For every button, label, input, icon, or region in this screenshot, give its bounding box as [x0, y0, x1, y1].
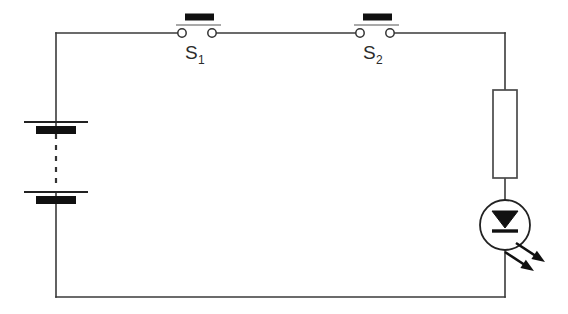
- switch-s2-terminal-left: [356, 29, 364, 37]
- switch-s2-blade[interactable]: [363, 14, 392, 21]
- battery-icon: [24, 122, 88, 204]
- switch-s1-label: S: [185, 42, 198, 63]
- led-icon: [480, 200, 545, 271]
- battery-plate-negative-2: [36, 196, 76, 204]
- switch-s1-terminal-left: [178, 29, 186, 37]
- led-emission-arrow-1-shaft: [516, 243, 537, 257]
- switch-s1-label-subscript: 1: [198, 53, 205, 67]
- led-emission-arrow-1-head: [531, 251, 545, 262]
- wire-group: [56, 33, 505, 297]
- circuit-diagram-canvas: S 1 S 2: [0, 0, 568, 314]
- switch-s2[interactable]: S 2: [354, 14, 399, 68]
- switch-s2-label: S: [363, 42, 376, 63]
- circuit-diagram-svg: S 1 S 2: [0, 0, 568, 314]
- resistor-icon: [493, 90, 517, 178]
- switch-s2-label-subscript: 2: [376, 53, 383, 67]
- switch-s1-terminal-right: [208, 29, 216, 37]
- switch-s2-terminal-right: [386, 29, 394, 37]
- battery-plate-negative-1: [36, 126, 76, 134]
- switch-s1-blade[interactable]: [185, 14, 214, 21]
- led-emission-arrow-2-head: [520, 260, 534, 271]
- resistor-body: [493, 90, 517, 178]
- led-emission-arrow-2-shaft: [505, 252, 526, 266]
- switch-s1[interactable]: S 1: [176, 14, 221, 68]
